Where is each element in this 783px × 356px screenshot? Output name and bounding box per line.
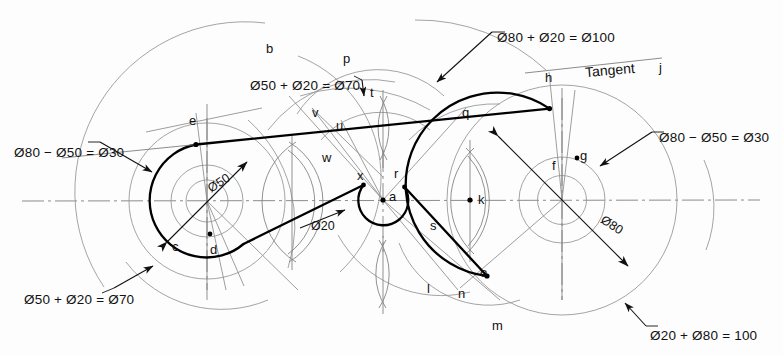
point-label-p: p <box>343 51 350 66</box>
point-label-g: g <box>580 148 587 163</box>
point-label-e: e <box>189 113 196 128</box>
dim-leader-top-70 <box>362 80 364 96</box>
point-label-c: c <box>172 239 179 254</box>
dim-leader-bottom-100 <box>625 303 646 326</box>
dim-bottom-sum-100: Ø20 + Ø80 = 100 <box>650 328 757 343</box>
point-label-q: q <box>462 105 469 120</box>
point-markers <box>193 106 579 279</box>
point-label-d: d <box>210 242 217 257</box>
point-label-m: m <box>492 318 503 333</box>
point-label-n: n <box>458 286 465 301</box>
point-marker-r <box>402 185 407 190</box>
dim-leader-top-100 <box>437 32 492 82</box>
point-label-k: k <box>478 192 485 207</box>
tangent-extension-lines <box>62 58 662 158</box>
point-label-u: u <box>336 118 343 133</box>
point-marker-a <box>380 197 385 202</box>
point-label-r: r <box>394 166 398 181</box>
dim-dia-20: Ø20 <box>311 219 335 233</box>
dim-leader-right-diff <box>600 132 652 166</box>
technical-drawing-canvas: Ø80 − Ø50 = Ø30 Ø50 + Ø20 = Ø70 Ø50 + Ø2… <box>0 0 783 356</box>
dim-arrow-80 <box>498 136 628 266</box>
dim-right-diff: Ø80 − Ø50 = Ø30 <box>659 130 769 145</box>
dim-left-sum: Ø50 + Ø20 = Ø70 <box>24 292 134 307</box>
point-label-a: a <box>389 189 396 204</box>
point-label-f: f <box>552 158 556 173</box>
point-label-v: v <box>312 105 319 120</box>
dim-leader-left-sum <box>114 266 153 288</box>
point-marker-h <box>547 106 552 111</box>
point-label-l: l <box>427 281 430 296</box>
point-marker-e <box>193 142 198 147</box>
point-label-s: s <box>430 218 437 233</box>
dim-left-diff: Ø80 − Ø50 = Ø30 <box>14 145 124 160</box>
point-marker-d <box>208 232 213 237</box>
point-label-h: h <box>545 70 552 85</box>
point-marker-x <box>361 183 366 188</box>
point-label-o: o <box>480 265 487 280</box>
point-label-b: b <box>266 41 273 56</box>
point-label-w: w <box>322 150 331 165</box>
dim-top-sum-70: Ø50 + Ø20 = Ø70 <box>250 78 360 93</box>
point-label-x: x <box>357 168 364 183</box>
point-label-j: j <box>659 60 662 75</box>
point-marker-g <box>575 156 580 161</box>
dim-top-sum-100: Ø80 + Ø20 = Ø100 <box>497 30 615 45</box>
point-marker-k <box>467 197 472 202</box>
point-label-t: t <box>370 85 374 100</box>
